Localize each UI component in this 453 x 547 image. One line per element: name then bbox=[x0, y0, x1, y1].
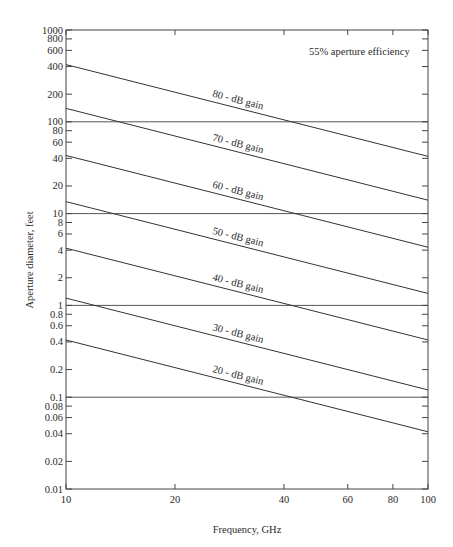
y-tick-label: 0.04 bbox=[45, 428, 64, 439]
x-tick-label: 40 bbox=[279, 494, 290, 505]
y-tick-label: 600 bbox=[47, 45, 63, 56]
y-tick-label: 2 bbox=[58, 272, 63, 283]
y-tick-label: 6 bbox=[58, 228, 63, 239]
gain-line bbox=[66, 340, 428, 432]
chart: 0.010.020.040.060.080.10.20.40.60.812468… bbox=[0, 0, 453, 547]
x-axis-label: Frequency, GHz bbox=[213, 524, 282, 535]
x-tick-label: 20 bbox=[170, 494, 181, 505]
y-tick-label: 0.02 bbox=[45, 456, 63, 467]
y-tick-label: 40 bbox=[53, 153, 64, 164]
y-tick-label: 10 bbox=[53, 208, 64, 219]
y-tick-label: 1000 bbox=[42, 25, 63, 36]
y-tick-label: 200 bbox=[47, 89, 63, 100]
x-tick-label: 60 bbox=[342, 494, 353, 505]
y-tick-label: 1 bbox=[58, 300, 63, 311]
y-tick-label: 100 bbox=[47, 116, 63, 127]
x-tick-label: 80 bbox=[388, 494, 399, 505]
y-tick-label: 0.6 bbox=[50, 320, 63, 331]
annotation-text: 55% aperture efficiency bbox=[309, 46, 410, 57]
x-tick-label: 10 bbox=[61, 494, 72, 505]
y-tick-label: 60 bbox=[53, 137, 64, 148]
y-tick-label: 0.2 bbox=[50, 364, 63, 375]
gain-line bbox=[66, 248, 428, 340]
y-tick-label: 0.06 bbox=[45, 412, 63, 423]
y-tick-label: 4 bbox=[58, 245, 64, 256]
y-tick-label: 20 bbox=[53, 180, 64, 191]
reference-lines bbox=[66, 122, 428, 397]
y-tick-label: 0.4 bbox=[50, 336, 64, 347]
y-tick-label: 0.01 bbox=[45, 484, 63, 495]
x-tick-label: 100 bbox=[420, 494, 436, 505]
y-tick-label: 0.1 bbox=[50, 392, 63, 403]
y-tick-label: 400 bbox=[47, 61, 63, 72]
y-axis-label: Aperture diameter, feet bbox=[24, 211, 35, 308]
